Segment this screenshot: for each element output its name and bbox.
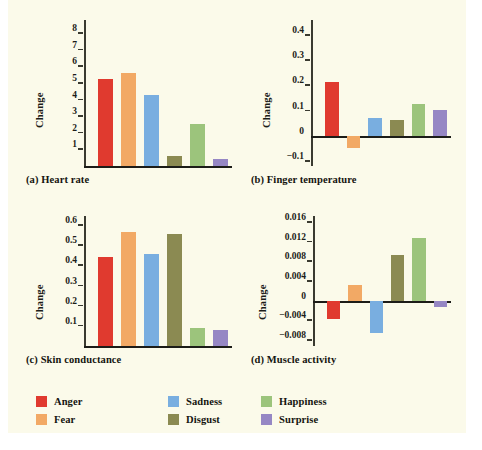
legend-swatch-surprise [261, 414, 272, 425]
legend-label: Happiness [279, 396, 327, 407]
legend-item-anger: Anger [36, 396, 83, 407]
legend-label: Surprise [279, 414, 318, 425]
legend: AngerFearSadnessDisgustHappinessSurprise [8, 0, 466, 433]
legend-swatch-disgust [168, 414, 179, 425]
legend-swatch-sadness [168, 396, 179, 407]
legend-label: Fear [54, 414, 75, 425]
legend-item-surprise: Surprise [261, 414, 318, 425]
legend-swatch-anger [36, 396, 47, 407]
legend-label: Disgust [186, 414, 220, 425]
legend-label: Sadness [186, 396, 222, 407]
legend-label: Anger [54, 396, 83, 407]
legend-swatch-happiness [261, 396, 272, 407]
legend-item-disgust: Disgust [168, 414, 220, 425]
legend-item-fear: Fear [36, 414, 75, 425]
figure-panel: Change 12345678 (a) Heart rate Change 0.… [8, 0, 466, 433]
legend-item-happiness: Happiness [261, 396, 327, 407]
legend-swatch-fear [36, 414, 47, 425]
legend-item-sadness: Sadness [168, 396, 222, 407]
